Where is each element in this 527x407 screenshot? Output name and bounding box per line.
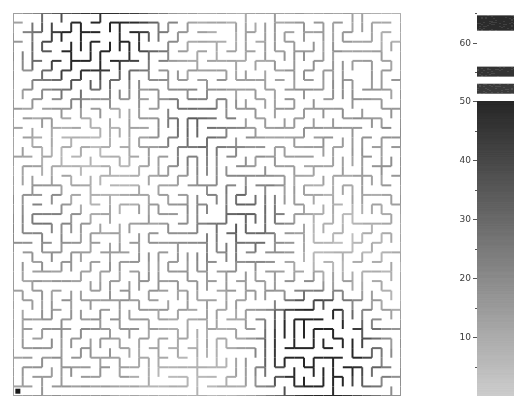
- maze-plot-area: [13, 13, 401, 396]
- figure-canvas: 102030405060: [0, 0, 527, 407]
- colorbar-tick-label: 10: [460, 333, 471, 342]
- colorbar-gradient: [477, 13, 514, 396]
- colorbar-tick-label: 30: [460, 215, 471, 224]
- maze-render-canvas: [13, 13, 401, 396]
- colorbar-tick-label: 50: [460, 97, 471, 106]
- colorbar-tick-label: 20: [460, 274, 471, 283]
- colorbar-tick-label: 40: [460, 156, 471, 165]
- colorbar-tick-label: 60: [460, 38, 471, 47]
- colorbar: 102030405060: [477, 13, 514, 396]
